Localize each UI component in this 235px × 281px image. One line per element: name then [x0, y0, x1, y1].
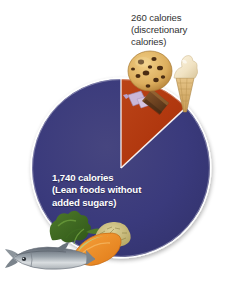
discretionary-callout-label: 260 calories (discretionary calories) [131, 12, 227, 49]
chart-canvas: 260 calories (discretionary calories) 1,… [0, 0, 235, 281]
lean-foods-inner-label: 1,740 calories (Lean foods without added… [52, 172, 182, 209]
